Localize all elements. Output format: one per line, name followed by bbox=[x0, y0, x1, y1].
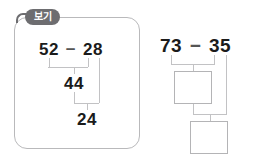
problem-step2-answer-box[interactable] bbox=[190, 121, 228, 154]
example-tick-subtrahend-tens bbox=[88, 58, 89, 67]
problem-tick-step1 bbox=[193, 104, 194, 114]
example-drop-step2 bbox=[87, 103, 88, 110]
example-tick-subtrahend-ones bbox=[99, 58, 100, 103]
example-tick-minuend bbox=[49, 58, 50, 67]
example-step2-result: 24 bbox=[76, 110, 98, 130]
problem-tick-subtrahend-tens bbox=[214, 55, 215, 64]
worksheet-page: 보기 52 − 28 44 24 73 − 35 bbox=[0, 0, 254, 162]
problem-operator: − bbox=[188, 35, 203, 57]
problem-drop-step2 bbox=[210, 114, 211, 121]
problem-minuend: 73 bbox=[159, 35, 183, 57]
problem-step1-answer-box[interactable] bbox=[174, 71, 212, 104]
example-drop-step1 bbox=[74, 67, 75, 74]
example-tab-label: 보기 bbox=[25, 9, 60, 25]
problem-tick-subtrahend-ones bbox=[226, 55, 227, 114]
problem-tick-minuend bbox=[171, 55, 172, 64]
example-bracket-step1 bbox=[48, 67, 88, 68]
example-tick-step1 bbox=[74, 92, 75, 103]
example-subtrahend: 28 bbox=[82, 40, 104, 60]
example-operator: − bbox=[64, 40, 78, 60]
example-step1-result: 44 bbox=[63, 74, 85, 94]
problem-drop-step1 bbox=[193, 64, 194, 71]
problem-subtrahend: 35 bbox=[208, 35, 232, 57]
example-minuend: 52 bbox=[38, 40, 60, 60]
